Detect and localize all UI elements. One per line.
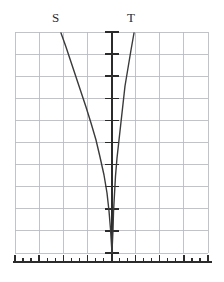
curve-label-s: S xyxy=(52,11,59,24)
curve-label-t: T xyxy=(127,11,135,24)
plot-area xyxy=(0,0,224,282)
curves xyxy=(61,33,134,253)
graph-figure: S T xyxy=(0,0,224,282)
curve-s xyxy=(61,33,112,253)
